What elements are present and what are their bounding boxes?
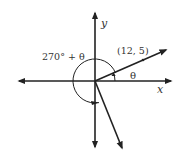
point-marker — [142, 59, 145, 62]
rotated-ray — [95, 81, 122, 148]
angle-diagram: y x (12, 5) θ 270° + θ — [0, 0, 180, 161]
big-angle-label: 270° + θ — [42, 51, 85, 62]
x-axis-label: x — [157, 83, 164, 96]
point-label: (12, 5) — [117, 45, 149, 56]
y-axis-label: y — [100, 17, 108, 30]
theta-label: θ — [130, 70, 136, 81]
